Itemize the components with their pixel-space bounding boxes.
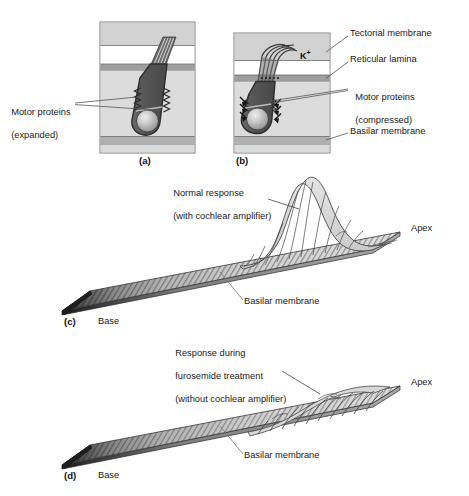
panel-c-apex-label: Apex <box>411 223 432 233</box>
panel-d-response-line1: Response during <box>175 348 245 358</box>
panel-c-base-label: Base <box>98 316 119 326</box>
label-reticular-lamina: Reticular lamina <box>350 54 417 65</box>
potassium-ion-label: K+ <box>295 39 311 61</box>
panel-d-tag: (d) <box>64 470 76 481</box>
panel-c-tag: (c) <box>64 316 76 327</box>
panel-c-response-line2: (with cochlear amplifier) <box>173 211 271 221</box>
potassium-charge: + <box>307 49 311 56</box>
figure-canvas <box>0 0 469 496</box>
label-motor-proteins-line1: Motor proteins <box>355 92 414 102</box>
panel-d-response-line3: (without cochlear amplifier) <box>175 394 286 404</box>
panel-c-response-label: Normal response (with cochlear amplifier… <box>168 177 271 223</box>
label-tectorial-membrane: Tectorial membrane <box>350 28 432 39</box>
panel-d-basilar-membrane-label: Basilar membrane <box>244 450 319 460</box>
panel-d-apex-label: Apex <box>411 377 432 387</box>
panel-c-response-line1: Normal response <box>173 188 244 198</box>
panel-b-diagram <box>234 33 348 153</box>
panel-a-label-line1: Motor proteins <box>11 107 70 117</box>
panel-d-response-label: Response during furosemide treatment (wi… <box>170 337 286 405</box>
label-motor-proteins-line2: (compressed) <box>355 115 412 125</box>
panel-a-motor-proteins-label: Motor proteins (expanded) <box>6 96 71 142</box>
panel-a-tag: (a) <box>139 155 151 166</box>
label-basilar-membrane-b: Basilar membrane <box>350 126 425 137</box>
panel-d-response-line2: furosemide treatment <box>175 371 263 381</box>
panel-a-diagram <box>75 22 195 153</box>
panel-d-base-label: Base <box>98 470 119 480</box>
panel-a-label-line2: (expanded) <box>11 130 58 140</box>
figure-root: Motor proteins (expanded) (a) K+ (b) Tec… <box>0 0 469 496</box>
panel-b-tag: (b) <box>236 155 248 166</box>
label-motor-proteins-compressed: Motor proteins (compressed) <box>350 81 415 127</box>
panel-c-basilar-membrane-label: Basilar membrane <box>244 296 319 306</box>
